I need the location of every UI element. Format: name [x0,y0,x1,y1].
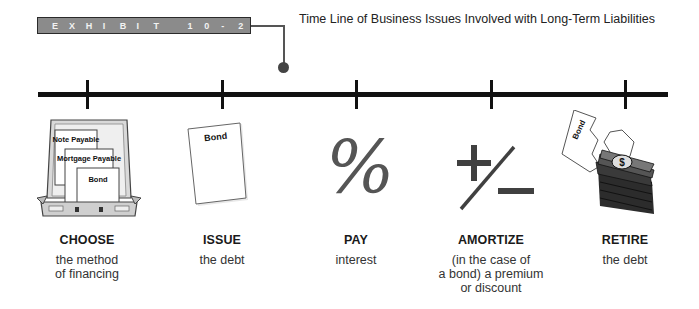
exhibit-letter: 2 [238,21,250,31]
briefcase-icon: Note Payable Mortgage Payable Bond [35,118,143,220]
mortgage-payable-label: Mortgage Payable [57,154,121,163]
step-retire: RETIRE the debt [545,233,699,267]
exhibit-letter: - [221,21,238,31]
step-title: RETIRE [545,233,699,247]
timeline-tick [221,80,224,109]
bond-document-icon: Bond [186,122,252,208]
exhibit-letter [170,21,187,31]
connector-line [283,25,285,65]
step-description: the debt [545,253,699,267]
plus-minus-icon [455,142,535,212]
diagram-title: Time Line of Business Issues Involved wi… [299,12,655,26]
exhibit-letter: E [52,21,69,31]
exhibit-letter: H [86,21,103,31]
timeline-tick [624,80,627,109]
exhibit-letter: 1 [187,21,204,31]
percent-icon: % [326,132,394,204]
exhibit-letter: 0 [204,21,221,31]
exhibit-letter: X [69,21,86,31]
timeline-tick [355,80,358,109]
bond-label: Bond [88,175,108,184]
exhibit-letter: T [154,21,171,31]
timeline-tick [490,80,493,109]
exhibit-letter: B [120,21,137,31]
exhibit-letter: I [137,21,154,31]
note-payable-label: Note Payable [52,135,99,144]
torn-bond-money-icon: Bond $ [560,110,680,222]
exhibit-badge: E X H I B I T 1 0 - 2 [37,17,251,34]
exhibit-letter: I [103,21,120,31]
timeline-tick [86,80,89,109]
connector-line [251,25,284,27]
connector-dot [278,62,289,73]
timeline-axis [38,92,668,97]
dollar-sign: $ [619,157,625,168]
